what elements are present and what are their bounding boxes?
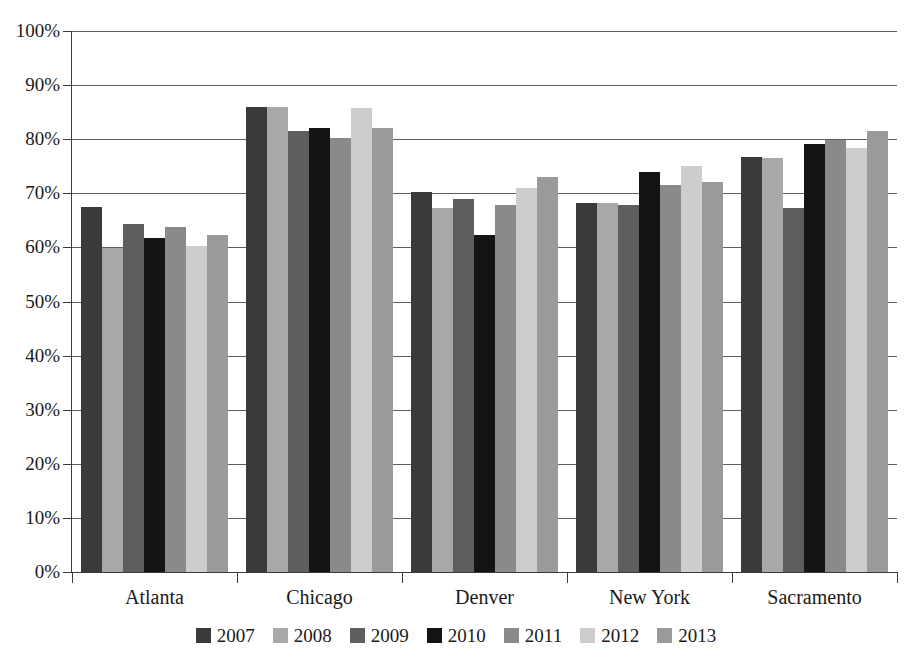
bar bbox=[660, 185, 681, 572]
bar bbox=[681, 166, 702, 572]
category-separator bbox=[732, 572, 733, 583]
legend-swatch-icon bbox=[504, 628, 519, 643]
y-axis-label: 70% bbox=[0, 183, 60, 202]
legend-item-2009[interactable]: 2009 bbox=[350, 626, 409, 645]
bar-group-atlanta bbox=[81, 31, 228, 572]
bar-group-sacramento bbox=[741, 31, 888, 572]
legend-swatch-icon bbox=[273, 628, 288, 643]
category-separator bbox=[567, 572, 568, 583]
legend-swatch-icon bbox=[580, 628, 595, 643]
bar bbox=[846, 148, 867, 572]
plot-area bbox=[72, 31, 897, 572]
legend-label: 2012 bbox=[601, 626, 639, 645]
y-axis-label: 30% bbox=[0, 400, 60, 419]
category-separator bbox=[402, 572, 403, 583]
bar bbox=[516, 188, 537, 572]
bar-group-new-york bbox=[576, 31, 723, 572]
bar bbox=[186, 246, 207, 572]
bar bbox=[330, 138, 351, 572]
y-axis-label: 40% bbox=[0, 346, 60, 365]
category-axis-line bbox=[72, 572, 897, 573]
category-label-chicago: Chicago bbox=[237, 586, 402, 608]
bar bbox=[309, 128, 330, 572]
bar bbox=[81, 207, 102, 572]
bar bbox=[537, 177, 558, 572]
bar bbox=[576, 203, 597, 572]
bar-group-chicago bbox=[246, 31, 393, 572]
y-axis-label: 0% bbox=[0, 562, 60, 581]
bar bbox=[351, 108, 372, 572]
bar bbox=[474, 235, 495, 572]
bar bbox=[453, 199, 474, 572]
legend-item-2011[interactable]: 2011 bbox=[504, 626, 562, 645]
legend-label: 2008 bbox=[294, 626, 332, 645]
y-axis-label: 60% bbox=[0, 237, 60, 256]
bar bbox=[288, 131, 309, 572]
bar-group-denver bbox=[411, 31, 558, 572]
bar bbox=[825, 140, 846, 572]
bar bbox=[702, 182, 723, 572]
legend-item-2010[interactable]: 2010 bbox=[427, 626, 486, 645]
bar bbox=[165, 227, 186, 572]
bar bbox=[762, 158, 783, 572]
y-axis-label: 90% bbox=[0, 75, 60, 94]
legend-swatch-icon bbox=[196, 628, 211, 643]
bar bbox=[144, 238, 165, 572]
category-label-sacramento: Sacramento bbox=[732, 586, 897, 608]
bar bbox=[123, 224, 144, 572]
legend-item-2007[interactable]: 2007 bbox=[196, 626, 255, 645]
y-axis-label: 20% bbox=[0, 454, 60, 473]
bar bbox=[267, 107, 288, 572]
bar bbox=[597, 203, 618, 572]
bar bbox=[804, 144, 825, 572]
legend-item-2012[interactable]: 2012 bbox=[580, 626, 639, 645]
y-axis-label: 10% bbox=[0, 508, 60, 527]
category-separator bbox=[72, 572, 73, 583]
legend-label: 2009 bbox=[371, 626, 409, 645]
bar bbox=[372, 128, 393, 572]
bar bbox=[618, 205, 639, 572]
bar bbox=[102, 248, 123, 572]
legend-label: 2007 bbox=[217, 626, 255, 645]
legend: 2007200820092010201120122013 bbox=[0, 626, 912, 645]
category-separator bbox=[897, 572, 898, 583]
category-separator bbox=[237, 572, 238, 583]
category-label-new-york: New York bbox=[567, 586, 732, 608]
legend-swatch-icon bbox=[657, 628, 672, 643]
legend-label: 2013 bbox=[678, 626, 716, 645]
bar bbox=[432, 208, 453, 572]
category-label-denver: Denver bbox=[402, 586, 567, 608]
bar bbox=[411, 192, 432, 572]
category-label-atlanta: Atlanta bbox=[72, 586, 237, 608]
bar bbox=[639, 172, 660, 572]
bar bbox=[246, 107, 267, 572]
legend-label: 2011 bbox=[525, 626, 562, 645]
legend-swatch-icon bbox=[350, 628, 365, 643]
legend-label: 2010 bbox=[448, 626, 486, 645]
bar-chart: 100%90%80%70%60%50%40%30%20%10%0% Atlant… bbox=[0, 0, 912, 661]
y-axis-label: 50% bbox=[0, 292, 60, 311]
bar bbox=[867, 131, 888, 572]
legend-item-2008[interactable]: 2008 bbox=[273, 626, 332, 645]
y-axis-label: 80% bbox=[0, 129, 60, 148]
bar bbox=[207, 235, 228, 572]
y-axis-label: 100% bbox=[0, 21, 60, 40]
bar bbox=[783, 208, 804, 572]
legend-item-2013[interactable]: 2013 bbox=[657, 626, 716, 645]
bar bbox=[495, 205, 516, 572]
legend-swatch-icon bbox=[427, 628, 442, 643]
bar bbox=[741, 157, 762, 572]
